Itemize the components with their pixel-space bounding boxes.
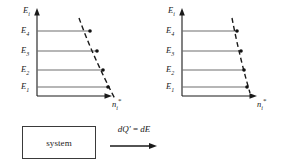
x-axis-label-sub: i — [116, 105, 118, 111]
energy-level-label-1-sub: 1 — [171, 87, 174, 93]
heat-prime-symbol: ′ — [129, 124, 131, 134]
population-point-1 — [245, 85, 249, 89]
energy-level-label-3: E3 — [166, 46, 174, 57]
energy-level-label-4: E4 — [21, 26, 29, 37]
y-axis-label: Ei — [23, 6, 30, 17]
energy-level-label-4: E4 — [166, 26, 174, 37]
system-box-left-label: system — [46, 138, 72, 148]
population-point-2 — [242, 68, 246, 72]
population-point-3 — [95, 49, 99, 53]
equals-symbol: = — [133, 124, 138, 134]
energy-level-label-3: E3 — [21, 46, 29, 57]
y-axis-arrowhead — [179, 8, 185, 16]
y-axis-label-sub: i — [28, 11, 30, 17]
energy-level-label-1: E1 — [166, 82, 174, 93]
energy-level-plot-right: Ei ni* E4 E3 E2 E1 — [145, 0, 290, 104]
y-axis-label-sub: i — [173, 11, 175, 17]
population-point-1 — [106, 85, 110, 89]
figure-root: Ei ni* E4 E3 E2 E1 system — [0, 0, 290, 166]
population-point-4 — [88, 29, 92, 33]
energy-level-label-2: E2 — [21, 65, 29, 76]
energy-level-label-1-sub: 1 — [26, 87, 29, 93]
heat-transfer-equation: dQ′ = dE — [104, 124, 164, 134]
energy-level-label-4-sub: 4 — [26, 31, 29, 37]
x-axis-label: ni* — [112, 98, 121, 111]
heat-transfer-group: dQ′ = dE — [104, 124, 164, 160]
energy-level-label-3-sub: 3 — [171, 51, 174, 57]
energy-level-plot-left: Ei ni* E4 E3 E2 E1 — [0, 0, 145, 104]
population-point-3 — [239, 49, 243, 53]
x-axis-label-sub: i — [261, 105, 263, 111]
system-box-left: system — [22, 126, 96, 159]
x-axis-arrowhead — [250, 93, 258, 99]
x-axis-label: ni* — [257, 98, 266, 111]
transfer-arrow-icon — [108, 140, 160, 152]
energy-level-label-2-sub: 2 — [171, 70, 174, 76]
population-point-2 — [101, 68, 105, 72]
energy-level-label-1: E1 — [21, 82, 29, 93]
energy-level-label-2-sub: 2 — [26, 70, 29, 76]
population-point-4 — [235, 29, 239, 33]
energy-differential-symbol: dE — [140, 124, 150, 134]
x-axis-arrowhead — [105, 93, 113, 99]
energy-level-label-3-sub: 3 — [26, 51, 29, 57]
boltzmann-curve-dashed — [232, 18, 250, 93]
energy-level-label-2: E2 — [166, 65, 174, 76]
panel-right: Ei ni* E4 E3 E2 E1 system — [145, 0, 290, 166]
x-axis-label-sup: * — [263, 97, 267, 105]
energy-level-label-4-sub: 4 — [171, 31, 174, 37]
y-axis-arrowhead — [34, 8, 40, 16]
y-axis-label: Ei — [168, 6, 175, 17]
x-axis-label-sup: * — [118, 97, 122, 105]
heat-quantity-symbol: dQ — [118, 124, 129, 134]
